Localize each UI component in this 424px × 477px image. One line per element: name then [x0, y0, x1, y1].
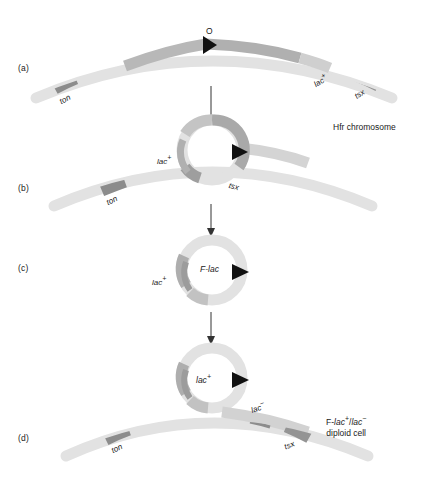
diagram-svg — [0, 0, 424, 477]
panel-label-d: (d) — [18, 433, 29, 443]
panel-a-chromosome — [36, 36, 392, 98]
caption-line-2: diploid cell — [326, 428, 366, 439]
ring-superscript: + — [207, 373, 211, 380]
figure-container: (a) (b) (c) (d) O ton lac+ tsx Hfr chrom… — [0, 0, 424, 477]
ring-text: lac — [196, 375, 207, 385]
caption-gene-2: lac — [351, 417, 362, 427]
panel-label-c: (c) — [18, 263, 29, 273]
ring-label-flac-c: F-lac — [200, 264, 219, 274]
panel-label-b: (b) — [18, 183, 29, 193]
ring-label-lac-d: lac+ — [196, 373, 211, 385]
caption-prefix: F- — [326, 417, 334, 427]
panel-d-plasmid — [181, 348, 249, 408]
gene-superscript: + — [167, 154, 171, 161]
gene-label-lac-c: lac+ — [152, 275, 166, 287]
gene-label-lac-b: lac+ — [157, 154, 171, 166]
gene-superscript: + — [162, 275, 166, 282]
arrow-c-to-d — [207, 312, 215, 345]
origin-label-a: O — [206, 26, 213, 36]
panel-label-a: (a) — [18, 63, 29, 73]
gene-text: lac — [152, 278, 162, 287]
caption-gene-1: lac — [334, 417, 345, 427]
caption-sup-2: − — [362, 415, 366, 422]
caption-diploid-cell: F-lac+/lac− diploid cell — [326, 413, 366, 439]
caption-hfr-chromosome: Hfr chromosome — [333, 122, 396, 132]
caption-line-1: F-lac+/lac− — [326, 413, 366, 428]
arrow-b-to-c — [207, 204, 215, 237]
gene-text: lac — [157, 157, 167, 166]
